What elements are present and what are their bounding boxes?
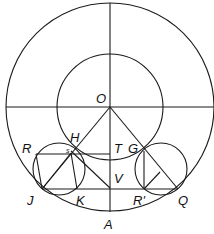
label-R-prime: R'	[133, 193, 145, 208]
label-T: T	[114, 141, 123, 156]
geometry-diagram: O H R s T G V J K R' Q A	[0, 0, 214, 234]
line-R-prime-perp	[144, 172, 160, 189]
line-JS	[42, 153, 71, 189]
label-V: V	[114, 171, 124, 186]
label-K: K	[76, 193, 86, 208]
label-Q: Q	[178, 193, 188, 208]
label-G: G	[128, 141, 138, 156]
label-s: s	[66, 147, 70, 154]
line-SK	[71, 153, 77, 189]
line-RJ	[36, 154, 42, 189]
label-H: H	[70, 130, 80, 145]
label-J: J	[26, 193, 34, 208]
label-O: O	[96, 91, 106, 106]
label-R: R	[22, 141, 31, 156]
label-A: A	[103, 217, 113, 232]
